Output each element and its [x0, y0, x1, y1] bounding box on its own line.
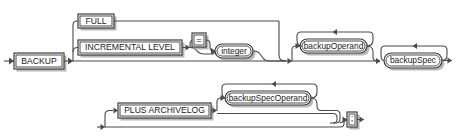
- backup-spec-loop-arrow-icon: [413, 43, 418, 49]
- branch-to-full-line: [73, 21, 78, 61]
- incremental-exit-arrow-icon: [186, 44, 191, 50]
- semicolon-label: ;: [351, 113, 354, 123]
- entry-arrow-icon: [9, 58, 14, 65]
- backup-spec-operand-label: backupSpecOperand: [229, 93, 308, 103]
- incremental-level-label: INCREMENTAL LEVEL: [85, 42, 175, 52]
- equals-label: =: [196, 35, 201, 45]
- backup-spec-operand-exit-line: [311, 98, 340, 123]
- syntax-diagram-canvas: BACKUP FULL INCREMENTAL LEVEL =: [0, 0, 457, 139]
- plus-archivelog-label: PLUS ARCHIVELOG: [124, 105, 205, 115]
- plus-archivelog-branch-line: [105, 111, 113, 128]
- diagram-exit-arrow-icon: [360, 116, 365, 122]
- backup-spec-operand-loop-arrow-icon: [272, 81, 277, 87]
- branch-to-incremental-line: [73, 48, 78, 53]
- backup-exit-arrow-icon: [68, 58, 73, 65]
- full-merge-line: [279, 21, 286, 61]
- full-label: FULL: [85, 16, 106, 26]
- backup-label: BACKUP: [21, 56, 57, 66]
- backup-spec-exit-arrow-icon: [448, 57, 453, 63]
- backup-spec-entry-arrow-icon: [376, 58, 381, 64]
- plus-archivelog-bypass-line: [105, 122, 344, 128]
- railroad-diagram-backup: BACKUP FULL INCREMENTAL LEVEL =: [0, 0, 457, 139]
- backup-spec-label: backupSpec: [390, 55, 436, 65]
- plus-archivelog-entry-arrow-icon: [114, 107, 119, 113]
- plus-archivelog-exit-arrow-icon: [213, 107, 218, 113]
- bottom-row-entry-arrow-icon: [101, 124, 106, 130]
- backup-spec-operand-bypass-line: [217, 114, 337, 124]
- backup-operand-label: backupOperand: [304, 41, 364, 51]
- backup-operand-loop-arrow-icon: [333, 29, 338, 35]
- backup-operand-approach-arrow-icon: [288, 58, 293, 64]
- integer-label: integer: [221, 46, 247, 56]
